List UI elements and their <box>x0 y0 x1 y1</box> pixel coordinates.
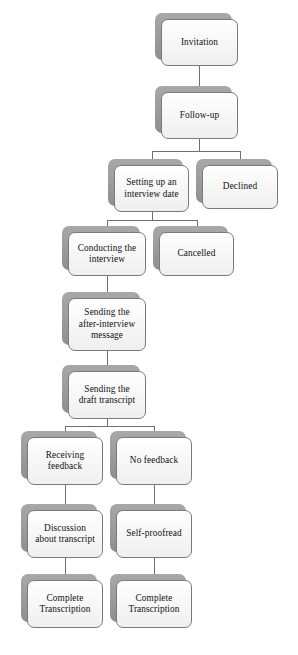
node-label-declined: Declined <box>223 181 257 193</box>
node-label-after-interview-message: Sending the after-interview message <box>79 307 136 342</box>
flowchart-canvas: InvitationFollow-upSetting up an intervi… <box>0 0 298 655</box>
node-label-draft-transcript: Sending the draft transcript <box>79 384 136 407</box>
node-receiving-feedback[interactable]: Receiving feedback <box>27 437 103 485</box>
node-label-complete-transcription-right: Complete Transcription <box>128 593 179 616</box>
node-label-cancelled: Cancelled <box>177 248 215 260</box>
node-complete-transcription-right[interactable]: Complete Transcription <box>116 580 192 628</box>
connector-seg-followup-down <box>199 139 200 151</box>
node-label-discussion-transcript: Discussion about transcript <box>35 523 95 546</box>
node-draft-transcript[interactable]: Sending the draft transcript <box>68 371 146 419</box>
node-declined[interactable]: Declined <box>202 165 278 209</box>
node-after-interview-message[interactable]: Sending the after-interview message <box>68 298 146 351</box>
node-label-no-feedback: No feedback <box>130 455 178 467</box>
connector-seg-setting-bar <box>107 220 197 221</box>
node-label-self-proofread: Self-proofread <box>126 528 182 540</box>
node-self-proofread[interactable]: Self-proofread <box>116 510 192 558</box>
node-invitation[interactable]: Invitation <box>161 19 238 66</box>
node-no-feedback[interactable]: No feedback <box>116 437 192 485</box>
connector-seg-setting-down <box>152 212 153 220</box>
node-label-complete-transcription-left: Complete Transcription <box>39 593 90 616</box>
connector-seg-draft-bar <box>65 426 154 427</box>
connector-seg-draft-down <box>107 419 108 426</box>
node-complete-transcription-left[interactable]: Complete Transcription <box>27 580 103 628</box>
node-label-setting-up-interview: Setting up an interview date <box>124 177 178 200</box>
node-cancelled[interactable]: Cancelled <box>159 232 234 276</box>
node-discussion-transcript[interactable]: Discussion about transcript <box>27 510 103 558</box>
node-follow-up[interactable]: Follow-up <box>161 92 238 139</box>
node-setting-up-interview[interactable]: Setting up an interview date <box>114 165 189 212</box>
node-conducting-interview[interactable]: Conducting the interview <box>68 232 146 276</box>
node-label-follow-up: Follow-up <box>180 110 220 122</box>
node-label-receiving-feedback: Receiving feedback <box>46 450 85 473</box>
connector-seg-followup-bar <box>152 151 240 152</box>
node-label-conducting-interview: Conducting the interview <box>78 243 136 266</box>
node-label-invitation: Invitation <box>181 37 218 49</box>
